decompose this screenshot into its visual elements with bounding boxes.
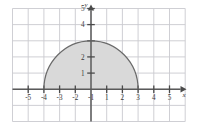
x-tick-label: -5 [25,94,31,102]
y-tick-label: 2 [81,54,85,62]
x-tick-label: -1 [88,94,94,102]
figure-container: -5 -4 -3 -2 -1 1 2 3 4 5 1 2 4 5 x y [0,0,200,127]
x-tick-label: 1 [105,94,109,102]
x-tick-label: 2 [121,94,125,102]
x-tick-label: 5 [168,94,172,102]
y-tick-label: 4 [81,21,85,29]
x-tick-label: -4 [41,94,47,102]
coordinate-plane-chart: -5 -4 -3 -2 -1 1 2 3 4 5 1 2 4 5 x y [0,0,200,127]
x-tick-label: 3 [136,94,140,102]
y-tick-label: 1 [81,70,85,78]
x-tick-label: -2 [72,94,78,102]
x-tick-label: 4 [152,94,156,102]
x-tick-label: -3 [57,94,63,102]
